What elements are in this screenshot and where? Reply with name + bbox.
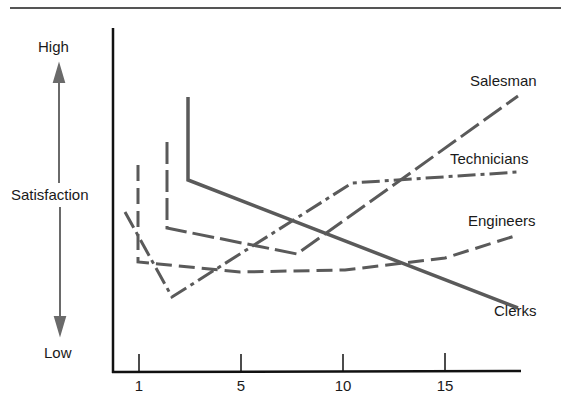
series-label-clerks: Clerks xyxy=(494,302,537,319)
x-tick-label-5: 5 xyxy=(237,377,245,394)
x-axis xyxy=(112,371,521,372)
x-tick-label-1: 1 xyxy=(135,377,143,394)
y-axis-title: Satisfaction xyxy=(11,186,89,203)
series-label-engineers: Engineers xyxy=(468,212,536,229)
y-low-label: Low xyxy=(44,344,72,361)
y-high-label: High xyxy=(38,38,69,55)
x-tick-label-15: 15 xyxy=(437,377,454,394)
x-tick-label-10: 10 xyxy=(335,377,352,394)
series-label-salesman: Salesman xyxy=(470,72,537,89)
series-technicians xyxy=(125,172,518,297)
x-ticks xyxy=(139,353,445,372)
series-clerks xyxy=(188,97,518,308)
series-label-technicians: Technicians xyxy=(450,150,528,167)
